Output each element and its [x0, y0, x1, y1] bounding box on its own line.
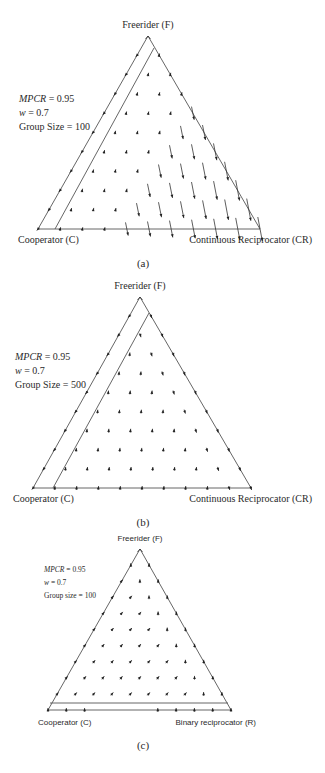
arrow-head-icon	[139, 579, 142, 582]
vertex-label-right: Binary reciprocator (R)	[176, 718, 257, 727]
vector-field	[37, 53, 263, 241]
arrow-head-icon	[227, 216, 230, 219]
group-size-annotation: Group Size = 100	[19, 121, 90, 132]
arrow-head-icon	[182, 215, 185, 218]
arrow-head-icon	[148, 595, 151, 598]
arrow-head-icon	[183, 372, 186, 375]
arrow-head-icon	[194, 429, 197, 432]
vertex-label-top: Freerider (F)	[118, 534, 163, 543]
arrow-head-icon	[202, 692, 205, 695]
group-size-annotation: Group Size = 500	[15, 379, 86, 390]
vertex-label-top: Freerider (F)	[122, 19, 173, 31]
arrow-head-icon	[184, 660, 187, 663]
arrow-head-icon	[149, 315, 152, 318]
vector-arrow	[247, 199, 251, 221]
group-size-annotation: Group size = 100	[44, 591, 96, 600]
arrow-head-icon	[137, 213, 140, 216]
arrow-head-icon	[183, 410, 186, 413]
panel-c: Freerider (F)Cooperator (C)Binary recipr…	[38, 534, 256, 752]
arrow-head-icon	[171, 234, 174, 237]
arrow-head-icon	[181, 175, 184, 178]
basin-boundary-line	[53, 313, 149, 488]
arrow-head-icon	[203, 137, 206, 140]
w-annotation: w = 0.7	[19, 107, 49, 118]
arrow-head-icon	[148, 194, 151, 197]
arrow-head-icon	[192, 116, 195, 119]
arrow-head-icon	[194, 391, 197, 394]
figure: Freerider (F)Cooperator (C)Continuous Re…	[0, 0, 325, 773]
arrow-head-icon	[148, 233, 151, 236]
arrow-head-icon	[238, 197, 241, 200]
arrow-head-icon	[204, 216, 207, 219]
arrow-head-icon	[205, 448, 208, 451]
panel-a: Freerider (F)Cooperator (C)Continuous Re…	[18, 19, 312, 270]
arrow-head-icon	[157, 612, 160, 615]
arrow-head-icon	[170, 155, 173, 158]
arrow-head-icon	[215, 196, 218, 199]
arrow-head-icon	[150, 353, 153, 356]
apex-marker-icon	[138, 549, 143, 552]
mpcr-annotation: MPCR = 0.95	[18, 93, 74, 104]
arrow-head-icon	[205, 410, 208, 413]
arrow-head-icon	[175, 644, 178, 647]
basin-boundary-line	[55, 48, 154, 229]
arrow-head-icon	[159, 174, 162, 177]
arrow-head-icon	[216, 467, 219, 470]
panel-b: Freerider (F)Cooperator (C)Continuous Re…	[13, 280, 312, 529]
arrow-head-icon	[226, 177, 229, 180]
vertex-label-left: Cooperator (C)	[13, 493, 74, 505]
mpcr-annotation: MPCR = 0.95	[14, 351, 70, 362]
arrow-head-icon	[166, 628, 169, 631]
arrow-head-icon	[192, 156, 195, 159]
panel-caption: (b)	[137, 516, 150, 529]
ternary-figure: Freerider (F)Cooperator (C)Continuous Re…	[0, 0, 325, 773]
mpcr-annotation: MPCR = 0.95	[43, 565, 86, 574]
arrow-head-icon	[161, 334, 164, 337]
panel-caption: (c)	[137, 739, 150, 752]
arrow-head-icon	[204, 176, 207, 179]
vector-field	[47, 563, 233, 712]
w-annotation: w = 0.7	[44, 578, 67, 587]
arrow-head-icon	[238, 467, 241, 470]
vertex-label-top: Freerider (F)	[114, 280, 165, 292]
panel-caption: (a)	[137, 257, 150, 270]
apex-marker-icon	[138, 297, 143, 300]
arrow-head-icon	[249, 217, 252, 220]
arrow-head-icon	[172, 353, 175, 356]
vector-field	[32, 314, 252, 490]
arrow-head-icon	[170, 194, 173, 197]
arrow-head-icon	[227, 448, 230, 451]
apex-marker-icon	[146, 36, 151, 39]
vertex-label-right: Continuous Reciprocator (CR)	[189, 234, 312, 246]
arrow-head-icon	[126, 232, 129, 235]
arrow-head-icon	[193, 195, 196, 198]
arrow-head-icon	[193, 676, 196, 679]
arrow-head-icon	[172, 391, 175, 394]
vertex-label-left: Cooperator (C)	[38, 718, 92, 727]
arrow-head-icon	[139, 334, 142, 337]
vertex-label-right: Continuous Reciprocator (CR)	[189, 493, 312, 505]
vertex-label-left: Cooperator (C)	[18, 234, 79, 246]
arrow-head-icon	[161, 372, 164, 375]
arrow-head-icon	[215, 157, 218, 160]
w-annotation: w = 0.7	[15, 365, 45, 376]
arrow-head-icon	[216, 429, 219, 432]
arrow-head-icon	[159, 214, 162, 217]
arrow-head-icon	[181, 136, 184, 139]
